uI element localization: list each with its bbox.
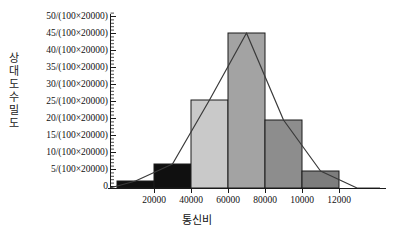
x-axis-group <box>108 189 386 194</box>
x-axis-tick-labels: 20000 40000 60000 80000 10000 12000 <box>0 195 394 211</box>
x-tick-label: 40000 <box>179 195 203 205</box>
y-axis-minor-ticks <box>111 13 115 183</box>
histogram-chart: 상 대 도 수 밀 도 50/(100×20000) 45/(100×20000… <box>0 0 394 233</box>
bar <box>154 164 191 188</box>
bar <box>191 100 228 188</box>
x-tick-label: 10000 <box>290 195 314 205</box>
x-tick-label: 60000 <box>216 195 240 205</box>
bars-group <box>117 33 339 188</box>
x-tick-label: 12000 <box>327 195 351 205</box>
x-tick-label: 80000 <box>253 195 277 205</box>
y-axis-group <box>111 13 117 188</box>
bar <box>302 171 339 188</box>
bar <box>265 120 302 188</box>
x-axis-title: 통신비 <box>0 211 394 227</box>
x-tick-label: 20000 <box>142 195 166 205</box>
